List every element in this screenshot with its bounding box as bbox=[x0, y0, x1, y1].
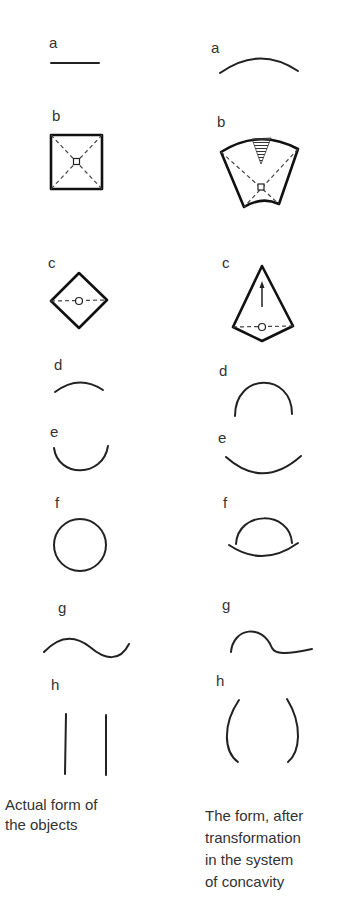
shape-h-transformed bbox=[227, 699, 298, 762]
shape-f-transformed bbox=[229, 518, 298, 556]
caption-transformed-form: The form, after transformation in the sy… bbox=[205, 805, 303, 893]
caption-actual-line2: the objects bbox=[5, 815, 98, 835]
shape-f-actual bbox=[54, 519, 106, 571]
caption-transformed-line2: transformation bbox=[205, 827, 303, 849]
shape-b-actual bbox=[51, 135, 102, 189]
shape-c-actual bbox=[51, 273, 107, 328]
shape-a-transformed bbox=[220, 58, 298, 73]
shape-h-actual bbox=[65, 714, 106, 775]
shape-c-transformed bbox=[233, 266, 293, 341]
caption-transformed-line4: of concavity bbox=[205, 871, 303, 893]
shape-d-transformed bbox=[235, 383, 292, 416]
caption-transformed-line1: The form, after bbox=[205, 805, 303, 827]
shape-e-transformed bbox=[226, 456, 301, 473]
caption-actual-line1: Actual form of bbox=[5, 795, 98, 815]
shape-d-actual bbox=[55, 382, 103, 392]
shape-e-actual bbox=[54, 446, 108, 470]
caption-transformed-line3: in the system bbox=[205, 849, 303, 871]
diagram-canvas bbox=[0, 0, 340, 921]
caption-actual-form: Actual form of the objects bbox=[5, 795, 98, 835]
shape-b-transformed bbox=[221, 138, 298, 207]
shape-g-actual bbox=[44, 639, 129, 658]
shape-g-transformed bbox=[231, 631, 312, 653]
